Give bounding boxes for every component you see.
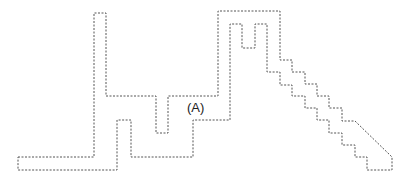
region-label-a: (A)	[187, 101, 204, 114]
region-outline	[18, 11, 392, 170]
diagram-canvas	[0, 0, 405, 180]
